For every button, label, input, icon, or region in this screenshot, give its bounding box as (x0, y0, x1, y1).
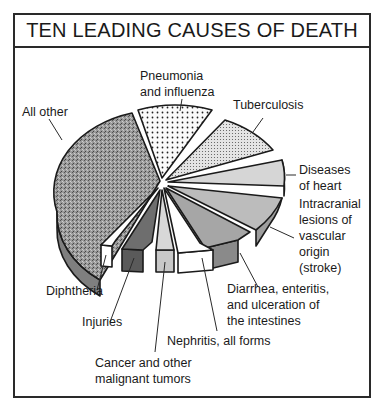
slice-nephritis-front (178, 250, 213, 273)
label-line: of heart (299, 178, 350, 194)
label-line: Intracranial (299, 196, 361, 212)
label-line: Tuberculosis (233, 97, 303, 113)
label-line: and ulceration of (227, 297, 329, 313)
label-line: Diseases (299, 162, 350, 178)
label-line: Diarrhea, enteritis, (227, 281, 329, 297)
label-line: All other (22, 104, 68, 120)
label-diarrhea: Diarrhea, enteritis, and ulceration of t… (227, 281, 329, 329)
label-line: malignant tumors (95, 371, 192, 387)
label-all-other: All other (22, 104, 68, 120)
label-line: the intestines (227, 313, 329, 329)
label-diphtheria: Diphtheria (46, 283, 103, 299)
label-cancer: Cancer and other malignant tumors (95, 355, 192, 387)
label-line: origin (299, 244, 361, 260)
label-line: (stroke) (299, 260, 361, 276)
label-line: vascular (299, 228, 361, 244)
label-line: Cancer and other (95, 355, 192, 371)
label-line: lesions of (299, 212, 361, 228)
label-heart: Diseases of heart (299, 162, 350, 194)
slice-injuries-front (122, 249, 143, 272)
label-line: and influenza (140, 84, 214, 100)
label-tuberculosis: Tuberculosis (233, 97, 303, 113)
label-nephritis: Nephritis, all forms (167, 333, 271, 349)
label-line: Injuries (82, 314, 122, 330)
label-line: Nephritis, all forms (167, 333, 271, 349)
label-pneumonia: Pneumonia and influenza (140, 68, 214, 100)
label-line: Diphtheria (46, 283, 103, 299)
slice-diphtheria-front (101, 245, 112, 267)
slice-cancer-front (156, 250, 174, 272)
label-injuries: Injuries (82, 314, 122, 330)
label-stroke: Intracranial lesions of vascular origin … (299, 196, 361, 276)
label-line: Pneumonia (140, 68, 214, 84)
